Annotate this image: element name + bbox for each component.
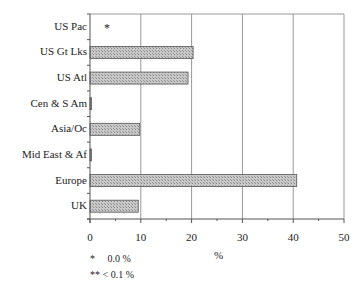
- x-tick-label: 40: [288, 231, 299, 243]
- category-label: US Gt Lks: [40, 45, 87, 57]
- x-tick-label: 0: [87, 231, 93, 243]
- category-label: Mid East & Af: [22, 148, 87, 160]
- x-tick-label: 20: [186, 231, 197, 243]
- annotation-star: *: [104, 21, 110, 36]
- footnote-2: ** < 0.1 %: [90, 269, 134, 280]
- bars: [90, 46, 297, 212]
- bar: [90, 200, 138, 212]
- axes: [87, 14, 344, 223]
- gridlines: [90, 14, 344, 219]
- plot-area: [0, 0, 362, 288]
- category-label: US Atl: [57, 71, 87, 83]
- category-label: UK: [71, 199, 87, 211]
- bar-chart: US PacUS Gt LksUS AtlCen & S AmAsia/OcMi…: [0, 0, 362, 288]
- bar: [90, 175, 297, 187]
- category-label: US Pac: [54, 20, 87, 32]
- bar: [90, 46, 193, 58]
- category-label: Asia/Oc: [51, 122, 87, 134]
- x-tick-label: 30: [237, 231, 248, 243]
- x-tick-label: 10: [135, 231, 146, 243]
- category-label: Europe: [55, 174, 87, 186]
- category-label: Cen & S Am: [30, 97, 87, 109]
- bar: [90, 72, 188, 84]
- x-axis-label: %: [214, 249, 223, 261]
- x-tick-label: 50: [339, 231, 350, 243]
- footnote-1: * 0.0 %: [90, 253, 131, 264]
- bar: [90, 123, 140, 135]
